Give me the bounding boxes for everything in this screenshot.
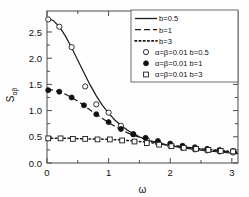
chart-canvas: 01230.00.51.01.52.02.5ωb=0.5b=1b=3α=β=0.… bbox=[0, 0, 249, 197]
marker-open-square bbox=[181, 145, 186, 150]
y-tick-label: 2.5 bbox=[29, 27, 42, 38]
legend-label: b=3 bbox=[159, 37, 172, 46]
y-tick-label: 1.0 bbox=[29, 105, 42, 116]
marker-filled-circle bbox=[106, 120, 111, 125]
legend-swatch-open-square bbox=[144, 72, 149, 77]
x-axis-title: ω bbox=[139, 184, 147, 195]
marker-open-square bbox=[83, 136, 88, 141]
marker-filled-circle bbox=[69, 95, 74, 100]
y-tick-label: 1.5 bbox=[29, 79, 42, 90]
legend-swatch-filled-circle bbox=[144, 61, 149, 66]
marker-open-square bbox=[95, 137, 100, 142]
marker-filled-circle bbox=[81, 103, 86, 108]
marker-filled-circle bbox=[46, 88, 51, 93]
legend-swatch-open-circle bbox=[143, 50, 148, 55]
marker-open-square bbox=[144, 141, 149, 146]
marker-open-circle bbox=[69, 45, 74, 50]
marker-open-square bbox=[206, 147, 211, 152]
marker-filled-circle bbox=[143, 135, 148, 140]
y-tick-label: 0.0 bbox=[29, 158, 42, 169]
marker-open-square bbox=[157, 142, 162, 147]
svg-text:Sαβ: Sαβ bbox=[5, 87, 19, 102]
marker-open-square bbox=[107, 137, 112, 142]
marker-open-square bbox=[46, 136, 51, 141]
x-tick-label: 1 bbox=[106, 167, 111, 178]
marker-open-square bbox=[218, 149, 223, 154]
legend-label: α=β=0.01 b=0.5 bbox=[155, 48, 209, 57]
marker-open-square bbox=[169, 144, 174, 149]
y-tick-label: 0.5 bbox=[29, 131, 42, 142]
marker-open-square bbox=[194, 146, 199, 151]
y-tick-label: 2.0 bbox=[29, 53, 42, 64]
legend-label: α=β=0.01 b=1 bbox=[155, 59, 202, 68]
marker-open-circle bbox=[57, 24, 62, 29]
marker-open-square bbox=[120, 138, 125, 143]
x-tick-label: 0 bbox=[44, 167, 49, 178]
data-curve-dashed bbox=[47, 90, 238, 153]
marker-open-square bbox=[231, 149, 236, 154]
marker-open-square bbox=[70, 136, 75, 141]
marker-filled-circle bbox=[118, 126, 123, 131]
marker-filled-circle bbox=[94, 112, 99, 117]
marker-open-square bbox=[58, 136, 63, 141]
marker-open-square bbox=[132, 139, 137, 144]
x-tick-label: 2 bbox=[168, 167, 173, 178]
marker-open-circle bbox=[83, 84, 88, 89]
marker-open-circle bbox=[94, 102, 99, 107]
marker-open-circle bbox=[46, 17, 51, 22]
legend-label: α=β=0.01 b=3 bbox=[155, 70, 202, 79]
y-axis-title: Sαβ bbox=[5, 87, 19, 102]
marker-filled-circle bbox=[131, 132, 136, 137]
marker-filled-circle bbox=[57, 89, 62, 94]
legend-label: b=0.5 bbox=[159, 14, 178, 23]
x-tick-label: 3 bbox=[229, 167, 234, 178]
chart-figure: 01230.00.51.01.52.02.5ωb=0.5b=1b=3α=β=0.… bbox=[0, 0, 249, 197]
legend-label: b=1 bbox=[159, 26, 172, 35]
marker-open-circle bbox=[106, 110, 111, 115]
